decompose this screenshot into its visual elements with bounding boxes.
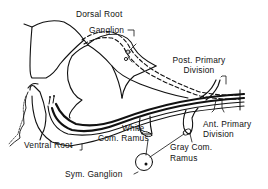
label-post-primary-division-line1: Post. Primary	[169, 56, 229, 65]
label-ganglion: Ganglion	[89, 26, 124, 35]
label-ant-primary-division-line2: Division	[203, 130, 234, 139]
label-white-com-ramus-line2: Com. Ramus	[98, 134, 149, 143]
spinal-nerve-diagram	[0, 0, 268, 189]
label-sym-ganglion: Sym. Ganglion	[65, 170, 123, 179]
gray-communicating-ramus	[182, 108, 198, 142]
label-gray-com-ramus-line1: Gray Com.	[170, 143, 212, 152]
label-ventral-root: Ventral Root	[24, 141, 73, 150]
label-gray-com-ramus-line2: Ramus	[170, 154, 198, 163]
label-dorsal-root: Dorsal Root	[76, 10, 122, 19]
label-white-com-ramus-line1: White	[122, 124, 144, 133]
label-post-primary-division-line2: Division	[169, 66, 229, 75]
label-ant-primary-division-line1: Ant. Primary	[203, 120, 251, 129]
